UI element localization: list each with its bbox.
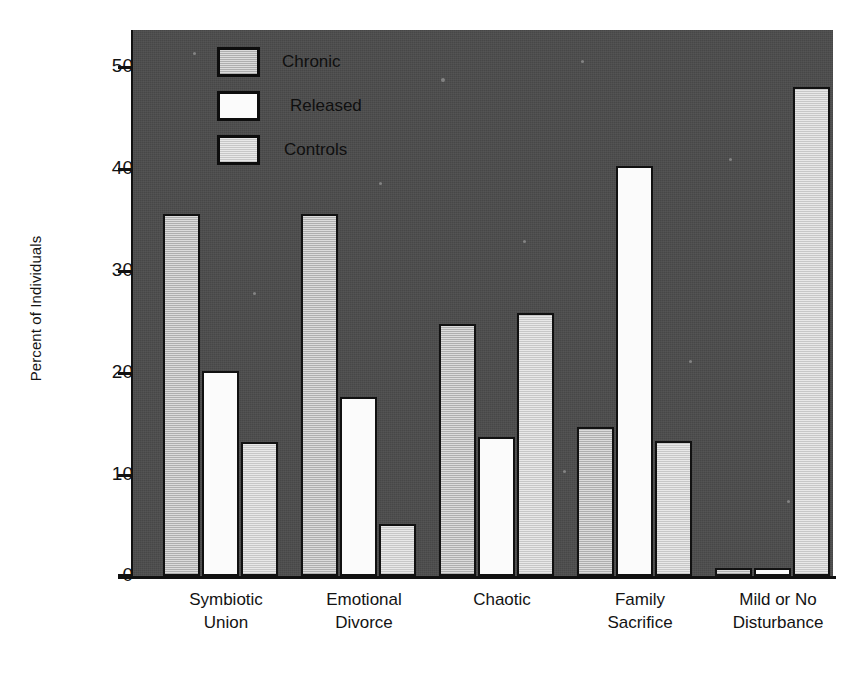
bar-chaotic-released (478, 437, 515, 576)
bar-symbiotic-union-controls (241, 442, 278, 576)
scan-speck (193, 52, 196, 55)
legend-label-chronic: Chronic (282, 52, 341, 72)
x-category-line1: Symbiotic (189, 590, 263, 609)
bar-family-sacrifice-controls (655, 441, 692, 576)
scan-speck (689, 360, 692, 363)
scan-speck (523, 240, 526, 243)
scan-speck (253, 292, 256, 295)
chart-legend: Chronic Released Controls (217, 40, 362, 172)
bar-emotional-divorce-released (340, 397, 377, 576)
scan-speck (787, 500, 790, 503)
x-axis-line (118, 576, 836, 579)
bar-emotional-divorce-chronic (301, 214, 338, 576)
legend-label-released: Released (290, 96, 362, 116)
x-category-line2: Divorce (279, 611, 449, 634)
bar-family-sacrifice-chronic (577, 427, 614, 576)
x-category-line2: Disturbance (693, 611, 863, 634)
legend-item-controls: Controls (217, 128, 362, 172)
y-axis-line (131, 30, 133, 578)
bar-mild-or-no-disturbance-released (754, 568, 791, 576)
scan-speck (379, 182, 382, 185)
bar-emotional-divorce-controls (379, 524, 416, 576)
bar-chart-figure: Percent of Individuals 50 40 30 20 10 0 (0, 0, 868, 675)
y-axis-title: Percent of Individuals (27, 199, 44, 419)
scan-speck (729, 158, 732, 161)
legend-swatch-chronic (217, 47, 260, 77)
bar-symbiotic-union-chronic (163, 214, 200, 576)
x-category-line1: Chaotic (473, 590, 531, 609)
x-category-line1: Mild or No (739, 590, 816, 609)
bar-mild-or-no-disturbance-controls (793, 87, 830, 576)
bar-mild-or-no-disturbance-chronic (715, 568, 752, 576)
x-category-line1: Emotional (326, 590, 402, 609)
x-category-line1: Family (615, 590, 665, 609)
bar-symbiotic-union-released (202, 371, 239, 576)
legend-swatch-released (217, 91, 260, 121)
plot-area: Chronic Released Controls (133, 30, 833, 576)
bar-chaotic-chronic (439, 324, 476, 576)
legend-item-chronic: Chronic (217, 40, 362, 84)
scan-speck (581, 60, 584, 63)
legend-label-controls: Controls (284, 140, 347, 160)
scan-speck (441, 78, 445, 82)
bar-chaotic-controls (517, 313, 554, 576)
legend-item-released: Released (217, 84, 362, 128)
bar-family-sacrifice-released (616, 166, 653, 576)
x-category-mild-or-no-disturbance: Mild or No Disturbance (693, 588, 863, 634)
scan-speck (563, 470, 566, 473)
legend-swatch-controls (217, 135, 260, 165)
